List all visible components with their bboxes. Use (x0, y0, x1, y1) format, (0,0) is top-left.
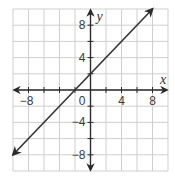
y-tick-label: −8 (72, 148, 86, 162)
x-axis-label: x (159, 72, 167, 87)
coordinate-plane: −84884−4−80xy (0, 0, 175, 181)
y-axis-label: y (94, 9, 103, 24)
y-tick-label: 8 (79, 18, 86, 32)
origin-label: 0 (79, 94, 86, 108)
y-tick-label: 4 (79, 51, 86, 65)
x-tick-label: 8 (149, 94, 156, 108)
y-tick-label: −4 (72, 115, 86, 129)
axes (14, 10, 167, 170)
x-tick-label: 4 (118, 94, 125, 108)
x-tick-label: −8 (20, 94, 34, 108)
